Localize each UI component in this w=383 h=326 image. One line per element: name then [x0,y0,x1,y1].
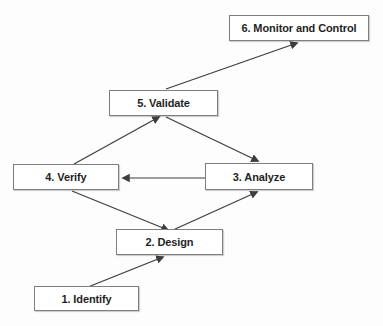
node-identify: 1. Identify [34,286,139,311]
node-identify-label: 1. Identify [61,293,111,305]
node-verify-label: 4. Verify [45,171,86,183]
edges-layer [0,0,383,326]
node-validate-label: 5. Validate [137,97,190,109]
node-analyze: 3. Analyze [205,163,313,190]
edge-identify-to-design [88,257,163,287]
node-verify: 4. Verify [13,164,119,190]
edge-validate-to-analyze [166,117,258,161]
node-validate: 5. Validate [109,90,218,116]
edge-verify-to-validate [74,117,159,164]
node-design: 2. Design [116,229,223,255]
node-design-label: 2. Design [145,236,193,248]
edge-verify-to-design [72,191,168,230]
node-monitor-and-control: 6. Monitor and Control [229,15,369,41]
edge-design-to-analyze [173,192,257,230]
node-monitor-and-control-label: 6. Monitor and Control [241,22,356,34]
node-analyze-label: 3. Analyze [233,171,285,183]
edge-validate-to-monitor [166,43,297,89]
flowchart-diagram: 6. Monitor and Control 5. Validate 4. Ve… [0,0,383,326]
